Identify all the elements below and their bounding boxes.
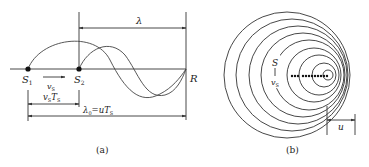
r-label: R bbox=[189, 73, 198, 84]
source-s-label: S bbox=[272, 58, 278, 68]
u-label: u bbox=[338, 122, 344, 132]
wave-from-s2 bbox=[79, 46, 186, 95]
source-s2-dot bbox=[76, 66, 81, 71]
source-s1-dot bbox=[25, 66, 30, 71]
doppler-diagram: λ S1 S2 R vS vSTS λ0=uTS (a) bbox=[0, 0, 369, 167]
caption-a: (a) bbox=[96, 145, 108, 155]
vsts-label: vSTS bbox=[43, 92, 61, 103]
vs-label: vS bbox=[47, 82, 56, 92]
lambda-label: λ bbox=[135, 15, 142, 26]
wavefront-circles bbox=[224, 12, 350, 138]
figure-a: λ S1 S2 R vS vSTS λ0=uTS (a) bbox=[10, 12, 198, 155]
figure-b: S vS u (b) bbox=[224, 12, 355, 155]
lambda0-label: λ0=uTS bbox=[82, 105, 114, 116]
s2-label: S2 bbox=[74, 74, 85, 86]
s1-label: S1 bbox=[22, 74, 33, 86]
caption-b: (b) bbox=[286, 145, 299, 155]
